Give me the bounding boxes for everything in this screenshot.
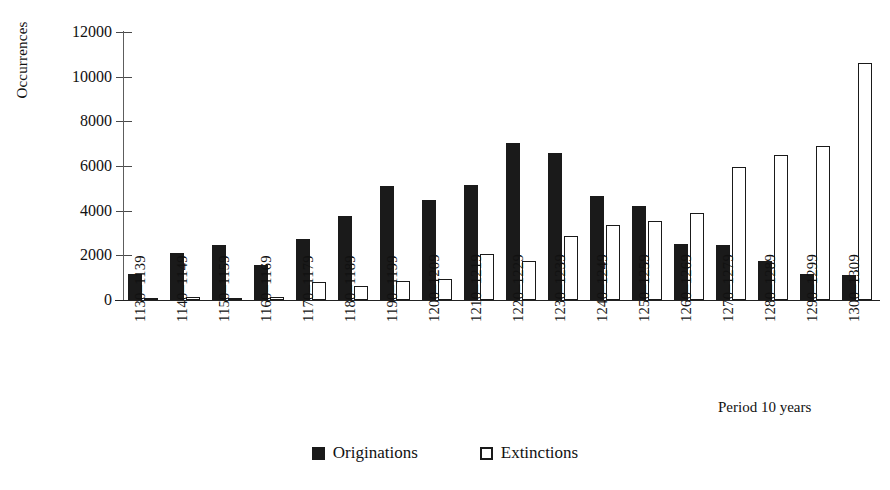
filled-square-icon: [312, 447, 325, 460]
legend-item-extinctions: Extinctions: [480, 443, 578, 463]
x-axis-tick-label: 1230–1239: [552, 242, 568, 322]
legend-label-extinctions: Extinctions: [501, 443, 578, 463]
x-axis-tick-label: 1160–1169: [258, 242, 274, 322]
y-axis-tick-labels: 020004000600080001000012000: [32, 0, 112, 490]
x-axis-tick-label: 1200–1209: [426, 242, 442, 322]
y-axis-tick-label: 4000: [40, 203, 112, 219]
x-axis-tick-label: 1270–1279: [720, 242, 736, 322]
hollow-square-icon: [480, 447, 493, 460]
y-axis-tick-label: 8000: [40, 113, 112, 129]
x-axis-tick-label: 1300–1309: [846, 242, 862, 322]
y-axis-tick-label: 10000: [40, 69, 112, 85]
x-axis-tick-label: 1140–1149: [174, 242, 190, 322]
x-axis-tick-label: 1180–1189: [342, 242, 358, 322]
y-axis-tick-label: 0: [40, 292, 112, 308]
x-axis-tick-label: 1170–1179: [300, 242, 316, 322]
y-axis-tick-label: 12000: [40, 24, 112, 40]
bar-chart-figure: Occurrences 020004000600080001000012000 …: [0, 0, 890, 490]
x-axis-tick-label: 1250–1259: [636, 242, 652, 322]
x-axis-tick-label: 1210–1219: [468, 242, 484, 322]
legend-item-originations: Originations: [312, 443, 418, 463]
y-axis-tick-label: 2000: [40, 247, 112, 263]
x-axis-tick-label: 1240–1249: [594, 242, 610, 322]
x-axis-tick-label: 1150–1159: [216, 242, 232, 322]
x-axis-tick-label: 1280–1289: [762, 242, 778, 322]
x-axis-tick-label: 1220–1229: [510, 242, 526, 322]
chart-legend: Originations Extinctions: [0, 443, 890, 463]
x-axis-title: Period 10 years: [718, 399, 811, 416]
x-axis-tick-label: 1130–1139: [132, 242, 148, 322]
x-axis-tick-label: 1290–1299: [804, 242, 820, 322]
x-axis-tick-label: 1190–1199: [384, 242, 400, 322]
x-axis-tick-label: 1260–1269: [678, 242, 694, 322]
legend-label-originations: Originations: [333, 443, 418, 463]
y-axis-tick-label: 6000: [40, 158, 112, 174]
